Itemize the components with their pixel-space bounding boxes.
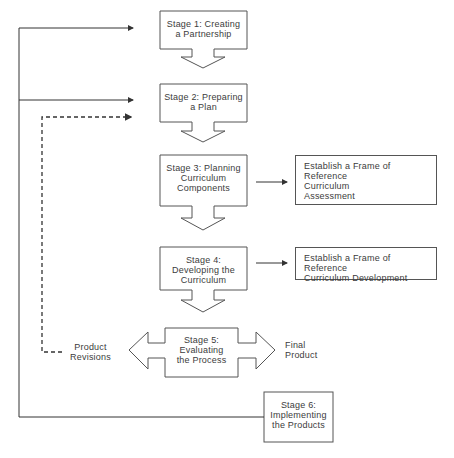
stage-6-label: Stage 6: Implementing the Products [264, 400, 333, 430]
flow-diagram-lines [0, 0, 454, 458]
final-product-label: Final Product [285, 340, 325, 360]
stage-4-label: Stage 4: Developing the Curriculum [160, 255, 247, 285]
product-revisions-label: Product Revisions [68, 342, 113, 362]
reference-box-assessment: Establish a Frame of Reference Curriculu… [295, 155, 437, 205]
stage-3-label: Stage 3: Planning Curriculum Components [160, 163, 247, 193]
stage-2-label: Stage 2: Preparing a Plan [160, 92, 247, 112]
reference-box-development: Establish a Frame of Reference Curriculu… [295, 247, 437, 280]
stage-5-label: Stage 5: Evaluating the Process [165, 335, 238, 365]
stage-1-label: Stage 1: Creating a Partnership [160, 19, 247, 39]
